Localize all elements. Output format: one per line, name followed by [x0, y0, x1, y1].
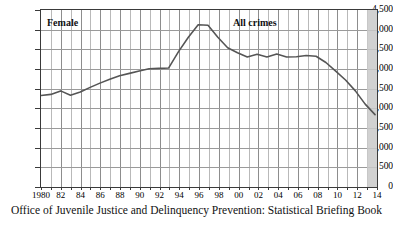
x-axis-tick — [209, 187, 210, 190]
x-axis-tick — [347, 187, 348, 190]
x-axis-tick-label: 02 — [254, 191, 263, 200]
x-axis-tick-label: 14 — [373, 191, 382, 200]
x-axis-tick-label: 84 — [76, 191, 85, 200]
x-axis-tick — [169, 187, 170, 190]
figure-caption: Office of Juvenile Justice and Delinquen… — [0, 203, 393, 217]
x-axis-tick — [90, 187, 91, 190]
x-axis-tick — [110, 187, 111, 190]
x-axis-tick-label: 00 — [234, 191, 243, 200]
x-axis-tick — [130, 187, 131, 190]
x-axis-tick — [268, 187, 269, 190]
x-axis-tick-label: 88 — [116, 191, 125, 200]
x-axis-tick — [288, 187, 289, 190]
plot-area: Female All crimes — [40, 9, 378, 188]
series-line — [41, 10, 377, 187]
x-axis-tick-label: 04 — [274, 191, 283, 200]
line-chart: 4,5004,0003,5003,0002,5002,0001,5001,000… — [0, 0, 393, 200]
x-axis-tick — [229, 187, 230, 190]
x-axis-tick-label: 90 — [135, 191, 144, 200]
x-axis-tick-label: 86 — [96, 191, 105, 200]
x-axis-tick-label: 94 — [175, 191, 184, 200]
x-axis-tick — [51, 187, 52, 190]
x-axis-tick-label: 12 — [353, 191, 362, 200]
x-axis-tick — [150, 187, 151, 190]
x-axis-tick — [367, 187, 368, 190]
x-axis-tick — [328, 187, 329, 190]
x-axis-tick-label: 10 — [333, 191, 342, 200]
x-axis-tick-label: 08 — [313, 191, 322, 200]
x-axis-tick — [71, 187, 72, 190]
x-axis-tick — [308, 187, 309, 190]
annotation-female: Female — [47, 18, 78, 28]
annotation-all-crimes: All crimes — [233, 18, 277, 28]
x-axis-tick-label: 98 — [214, 191, 223, 200]
x-axis-tick — [249, 187, 250, 190]
x-axis-tick-label: 96 — [195, 191, 204, 200]
x-axis-tick-label: 06 — [293, 191, 302, 200]
figure-root: 4,5004,0003,5003,0002,5002,0001,5001,000… — [0, 0, 393, 226]
x-axis-tick-label: 82 — [56, 191, 65, 200]
x-axis-tick — [189, 187, 190, 190]
x-axis-tick-label: 92 — [155, 191, 164, 200]
x-axis-tick-label: 1980 — [32, 191, 50, 200]
